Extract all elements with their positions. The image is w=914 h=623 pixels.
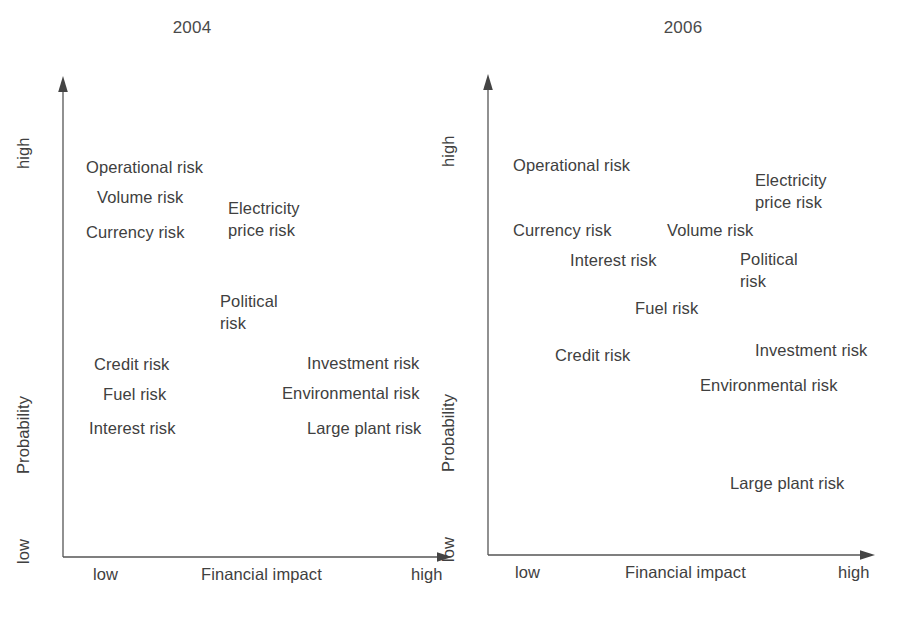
risk-label-interest-risk-2004: Interest risk (89, 418, 176, 440)
y-axis-low-label-2006: low (439, 537, 458, 562)
risk-label-political-risk-line1-2004: Political (220, 291, 278, 313)
x-axis-title-2006: Financial impact (625, 563, 746, 582)
y-axis-title-2004: Probability (14, 396, 33, 474)
x-axis-low-label-2004: low (93, 565, 118, 584)
risk-map-panel-2004: 2004 high Probability low low Financial … (0, 0, 460, 623)
y-axis-high-label-2004: high (14, 137, 33, 169)
risk-label-political-risk-line2-2004: risk (220, 313, 246, 335)
x-axis-high-label-2006: high (838, 563, 870, 582)
risk-label-electricity-price-risk-line1-2004: Electricity (228, 198, 300, 220)
risk-label-investment-risk-2006: Investment risk (755, 340, 867, 362)
risk-label-credit-risk-2004: Credit risk (94, 354, 169, 376)
risk-label-currency-risk-2006: Currency risk (513, 220, 611, 242)
risk-label-currency-risk-2004: Currency risk (86, 222, 184, 244)
risk-label-environmental-risk-2006: Environmental risk (700, 375, 838, 397)
risk-label-political-risk-line2-2006: risk (740, 271, 766, 293)
risk-label-large-plant-risk-2006: Large plant risk (730, 473, 844, 495)
risk-label-fuel-risk-2004: Fuel risk (103, 384, 166, 406)
risk-label-interest-risk-2006: Interest risk (570, 250, 657, 272)
risk-map-panel-2006: 2006 high Probability low low Financial … (460, 0, 914, 623)
risk-label-environmental-risk-2004: Environmental risk (282, 383, 420, 405)
y-axis-low-label-2004: low (14, 539, 33, 564)
risk-label-volume-risk-2006: Volume risk (667, 220, 753, 242)
risk-label-electricity-price-risk-line2-2006: price risk (755, 192, 822, 214)
risk-label-operational-risk-2006: Operational risk (513, 155, 630, 177)
risk-label-investment-risk-2004: Investment risk (307, 353, 419, 375)
x-axis-low-label-2006: low (515, 563, 540, 582)
risk-label-operational-risk-2004: Operational risk (86, 157, 203, 179)
panel-title-2004: 2004 (0, 18, 422, 38)
risk-label-electricity-price-risk-line2-2004: price risk (228, 220, 295, 242)
x-axis-high-label-2004: high (411, 565, 443, 584)
risk-label-political-risk-line1-2006: Political (740, 249, 798, 271)
y-axis-title-2006: Probability (439, 394, 458, 472)
x-axis-title-2004: Financial impact (201, 565, 322, 584)
risk-label-electricity-price-risk-line1-2006: Electricity (755, 170, 827, 192)
panel-title-2006: 2006 (456, 18, 910, 38)
risk-label-fuel-risk-2006: Fuel risk (635, 298, 698, 320)
risk-label-volume-risk-2004: Volume risk (97, 187, 183, 209)
risk-label-credit-risk-2006: Credit risk (555, 345, 630, 367)
risk-label-large-plant-risk-2004: Large plant risk (307, 418, 421, 440)
y-axis-high-label-2006: high (439, 135, 458, 167)
